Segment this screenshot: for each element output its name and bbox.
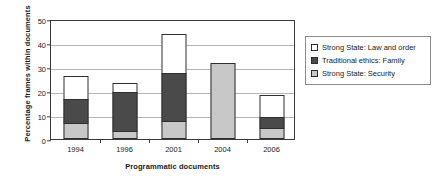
bar-segment[interactable] — [112, 92, 137, 132]
y-tick-label: 0 — [42, 137, 46, 146]
y-axis-title: Percentage frames within documents — [23, 0, 32, 154]
chart-legend: Strong State: Law and orderTraditional e… — [305, 36, 431, 85]
legend-label: Strong State: Security — [322, 70, 395, 78]
bar-segment[interactable] — [259, 128, 284, 139]
legend-swatch-icon — [311, 70, 318, 77]
bar-group[interactable] — [247, 21, 296, 139]
bar-segment[interactable] — [112, 131, 137, 139]
y-tick-label: 40 — [38, 41, 46, 50]
bar-segment[interactable] — [63, 123, 88, 139]
y-tick-label: 50 — [38, 17, 46, 26]
legend-item[interactable]: Traditional ethics: Family — [311, 54, 426, 67]
x-tick-mark — [149, 139, 150, 143]
legend-label: Strong State: Law and order — [322, 44, 416, 52]
bar-segment[interactable] — [210, 63, 235, 139]
legend-swatch-icon — [311, 44, 318, 51]
stacked-bar[interactable] — [161, 34, 186, 139]
bar-segment[interactable] — [63, 99, 88, 124]
y-tick-label: 10 — [38, 113, 46, 122]
bar-segment[interactable] — [63, 76, 88, 100]
legend-label: Traditional ethics: Family — [322, 57, 405, 65]
bar-group[interactable] — [51, 21, 100, 139]
legend-swatch-icon — [311, 57, 318, 64]
bar-group[interactable] — [198, 21, 247, 139]
stacked-bar[interactable] — [259, 95, 284, 139]
stacked-bar[interactable] — [210, 63, 235, 139]
bar-segment[interactable] — [259, 95, 284, 118]
bar-series-group — [51, 21, 294, 139]
y-tick-label: 30 — [38, 65, 46, 74]
bar-segment[interactable] — [161, 121, 186, 139]
x-tick-mark — [247, 139, 248, 143]
chart-figure: Percentage frames within documents 01020… — [0, 0, 447, 178]
bar-group[interactable] — [149, 21, 198, 139]
x-tick-mark — [100, 139, 101, 143]
bar-group[interactable] — [100, 21, 149, 139]
stacked-bar[interactable] — [63, 76, 88, 139]
bar-segment[interactable] — [161, 34, 186, 74]
x-tick-label: 1994 — [67, 145, 84, 154]
x-tick-label: 2001 — [165, 145, 182, 154]
x-axis-title: Programmatic documents — [50, 162, 295, 171]
bar-segment[interactable] — [161, 73, 186, 122]
x-tick-label: 2006 — [263, 145, 280, 154]
plot-area: 01020304050 19941996200120042006 — [50, 20, 295, 140]
y-tick-label: 20 — [38, 89, 46, 98]
x-tick-label: 2004 — [214, 145, 231, 154]
stacked-bar[interactable] — [112, 83, 137, 139]
x-tick-label: 1996 — [116, 145, 133, 154]
legend-item[interactable]: Strong State: Security — [311, 67, 426, 80]
x-tick-mark — [198, 139, 199, 143]
legend-item[interactable]: Strong State: Law and order — [311, 41, 426, 54]
y-tick-mark — [47, 140, 51, 141]
